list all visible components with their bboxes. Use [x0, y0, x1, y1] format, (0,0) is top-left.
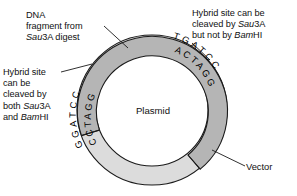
hybrid-both-label: Hybrid sitecan becleaved byboth Sau3Aand… — [3, 67, 79, 123]
vector-label: Vector — [246, 161, 272, 172]
plasmid-figure: GGATCC CCTAGG TGATCC ACTAGG Plasmid DNAf… — [0, 0, 297, 196]
leader-vector — [212, 150, 245, 166]
hybrid-sau-only-label: Hybrid site can becleaved by Sau3Abut no… — [192, 8, 296, 42]
dna-fragment-label: DNAfragment fromSau3A digest — [26, 10, 126, 44]
plasmid-center-label: Plasmid — [120, 105, 186, 116]
